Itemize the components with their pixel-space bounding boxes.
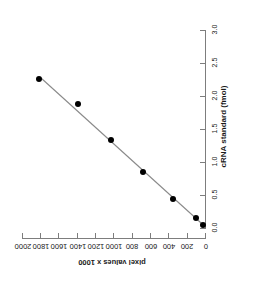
x-axis-tick	[200, 129, 205, 130]
y-axis-tick	[150, 233, 151, 238]
y-axis-tick	[58, 233, 59, 238]
data-point	[200, 222, 206, 228]
x-axis-tick	[200, 195, 205, 196]
data-point	[108, 137, 114, 143]
x-axis-tick	[200, 63, 205, 64]
y-axis-tick	[95, 233, 96, 238]
x-axis-tick-label: 1.0	[211, 154, 218, 170]
x-axis-tick-label: 2.5	[211, 55, 218, 71]
x-axis-title: cRNA standard (fmol)	[219, 77, 228, 177]
y-axis-tick-label: 200	[178, 242, 196, 251]
y-axis-tick-label: 800	[123, 242, 141, 251]
y-axis-tick	[132, 233, 133, 238]
x-axis-tick-label: 3.0	[211, 22, 218, 38]
y-axis-tick	[187, 233, 188, 238]
data-point	[140, 169, 146, 175]
x-axis-tick-label: 0.0	[211, 220, 218, 236]
y-axis-tick	[40, 233, 41, 238]
y-axis-tick-label: 400	[160, 242, 178, 251]
y-axis-tick	[168, 233, 169, 238]
x-axis-tick-label: 2.0	[211, 88, 218, 104]
y-axis-tick	[205, 233, 206, 238]
x-axis-tick	[200, 30, 205, 31]
y-axis-line	[22, 238, 206, 239]
y-axis-tick-label: 0	[197, 242, 215, 251]
x-axis-tick-label: 1.5	[211, 121, 218, 137]
x-axis-tick	[200, 228, 205, 229]
y-axis-tick-label: 600	[142, 242, 160, 251]
y-axis-tick	[22, 233, 23, 238]
x-axis-tick	[200, 96, 205, 97]
y-axis-tick-label: 1800	[31, 242, 51, 251]
y-axis-title: pixel values x 1000	[57, 258, 167, 267]
y-axis-tick	[77, 233, 78, 238]
data-point	[75, 101, 81, 107]
data-point	[193, 215, 199, 221]
x-axis-tick-label: 0.5	[211, 187, 218, 203]
y-axis-tick-label: 1000	[104, 242, 124, 251]
chart-figure: 0.0 0.5 1.0 1.5 2.0 2.5 3.0 cRNA standar…	[0, 0, 256, 284]
data-point	[36, 76, 42, 82]
data-point	[170, 196, 176, 202]
y-axis-tick	[113, 233, 114, 238]
y-axis-tick-label: 2000	[13, 242, 33, 251]
x-axis-line	[205, 30, 206, 229]
y-axis-tick-label: 1200	[86, 242, 106, 251]
x-axis-tick	[200, 162, 205, 163]
y-axis-tick-label: 1600	[49, 242, 69, 251]
y-axis-tick-label: 1400	[68, 242, 88, 251]
